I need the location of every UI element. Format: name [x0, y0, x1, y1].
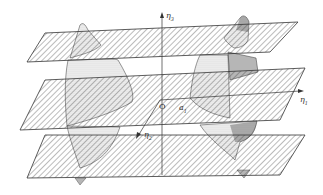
eta1-label: η1 — [300, 96, 308, 106]
a1-label: a1 — [179, 104, 187, 114]
upper-plane — [27, 22, 298, 62]
middle-plane — [20, 68, 305, 130]
lower-plane — [27, 135, 305, 178]
eta3-label: η3 — [166, 12, 174, 22]
origin-label: O — [159, 103, 166, 111]
eta2-label: η2 — [144, 131, 152, 141]
diagram-canvas — [0, 0, 323, 195]
